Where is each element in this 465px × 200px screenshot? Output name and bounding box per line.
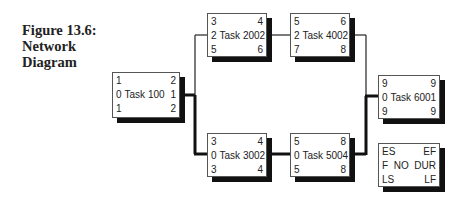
- legend-dur: DUR: [414, 160, 436, 172]
- float: 2: [294, 30, 300, 42]
- task-name: Task 100: [125, 89, 165, 101]
- early-start: 3: [211, 136, 217, 148]
- late-start: 5: [294, 164, 300, 176]
- early-start: 5: [294, 136, 300, 148]
- early-start: 5: [294, 16, 300, 28]
- task-name: Task 200: [220, 30, 260, 42]
- early-finish: 6: [340, 16, 346, 28]
- legend-node: ESEF FNODUR LSLF: [378, 143, 440, 187]
- late-finish: 2: [170, 103, 176, 115]
- early-finish: 4: [257, 16, 263, 28]
- task-node-100: 12 0Task 1001 12: [112, 72, 180, 118]
- task-node-300: 34 0Task 3002 34: [207, 133, 267, 177]
- late-start: 9: [382, 106, 388, 118]
- task-node-400: 56 2Task 4002 78: [290, 13, 350, 57]
- legend-es: ES: [382, 146, 395, 158]
- legend-ls: LS: [382, 174, 394, 186]
- duration: 1: [431, 92, 437, 104]
- float: 0: [294, 150, 300, 162]
- early-start: 3: [211, 16, 217, 28]
- task-node-500: 58 0Task 5004 58: [290, 133, 350, 177]
- legend-ef: EF: [423, 146, 436, 158]
- float: 0: [116, 89, 122, 101]
- late-start: 1: [116, 103, 122, 115]
- duration: 2: [260, 30, 266, 42]
- legend-float: F: [382, 160, 388, 172]
- duration: 1: [170, 89, 176, 101]
- late-finish: 8: [340, 44, 346, 56]
- early-start: 1: [116, 75, 122, 87]
- early-start: 9: [382, 78, 388, 90]
- task-name: Task 400: [303, 30, 343, 42]
- late-start: 5: [211, 44, 217, 56]
- duration: 4: [343, 150, 349, 162]
- duration: 2: [343, 30, 349, 42]
- late-finish: 6: [257, 44, 263, 56]
- float: 0: [382, 92, 388, 104]
- task-node-600: 99 0Task 6001 99: [378, 75, 440, 119]
- late-finish: 9: [430, 106, 436, 118]
- task-name: Task 600: [391, 92, 431, 104]
- late-start: 3: [211, 164, 217, 176]
- late-start: 7: [294, 44, 300, 56]
- task-name: Task 500: [303, 150, 343, 162]
- early-finish: 4: [257, 136, 263, 148]
- legend-lf: LF: [424, 174, 436, 186]
- early-finish: 8: [340, 136, 346, 148]
- float: 2: [211, 30, 217, 42]
- late-finish: 8: [340, 164, 346, 176]
- legend-name: NO: [394, 160, 409, 172]
- late-finish: 4: [257, 164, 263, 176]
- task-node-200: 34 2Task 2002 56: [207, 13, 267, 57]
- float: 0: [211, 150, 217, 162]
- duration: 2: [260, 150, 266, 162]
- early-finish: 9: [430, 78, 436, 90]
- task-name: Task 300: [220, 150, 260, 162]
- early-finish: 2: [170, 75, 176, 87]
